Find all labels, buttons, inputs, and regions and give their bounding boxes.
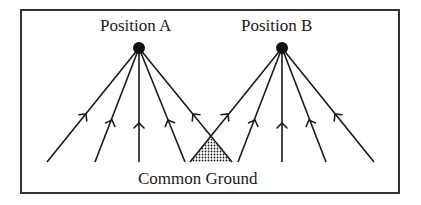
- arrowhead-icons: [79, 111, 342, 128]
- common-ground-label: Common Ground: [138, 170, 257, 187]
- position-b-node: [276, 42, 288, 54]
- common-ground-region: [190, 137, 232, 162]
- position-a-label: Position A: [100, 17, 171, 34]
- position-b-label: Position B: [241, 17, 312, 34]
- position-a-node: [133, 42, 145, 54]
- diagram-frame: [21, 10, 399, 193]
